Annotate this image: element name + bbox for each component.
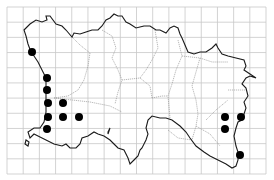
record-dot: [43, 74, 51, 82]
record-dot: [221, 113, 229, 121]
record-dot: [28, 48, 36, 56]
record-dot: [44, 99, 52, 107]
distribution-map: [0, 0, 274, 180]
record-dot: [237, 113, 245, 121]
record-dot: [59, 113, 67, 121]
record-dot: [43, 125, 51, 133]
record-dot: [236, 151, 244, 159]
record-dot: [59, 99, 67, 107]
record-dot: [221, 125, 229, 133]
record-dot: [43, 86, 51, 94]
record-dot: [75, 113, 83, 121]
record-dot: [44, 113, 52, 121]
